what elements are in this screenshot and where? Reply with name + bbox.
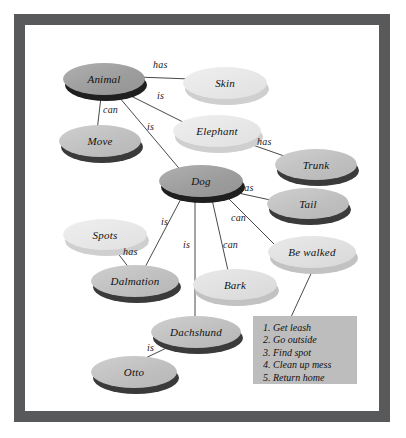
node-label-skin: Skin xyxy=(215,77,235,89)
node-elephant[interactable]: Elephant xyxy=(173,115,261,147)
procedure-list-box: 1. Get leash2. Go outside3. Find spot4. … xyxy=(253,316,357,384)
node-label-trunk: Trunk xyxy=(303,159,330,171)
node-label-otto: Otto xyxy=(124,366,144,378)
node-label-elephant: Elephant xyxy=(196,125,237,137)
node-skin[interactable]: Skin xyxy=(183,67,267,99)
edge-label-dachshund-otto: is xyxy=(147,343,154,353)
node-label-spots: Spots xyxy=(93,229,118,241)
edge-dog-dalmation xyxy=(143,195,183,271)
node-tail[interactable]: Tail xyxy=(267,188,349,219)
node-label-tail: Tail xyxy=(299,198,317,210)
edge-label-dog-dalmation: is xyxy=(161,217,168,227)
figure-root: AnimalSkinMoveElephantTrunkDogTailSpotsB… xyxy=(0,0,406,438)
procedure-item: 4. Clean up mess xyxy=(263,359,349,371)
edge-label-spots-dalmation: has xyxy=(123,247,138,257)
procedure-item: 5. Return home xyxy=(263,372,349,384)
node-label-move: Move xyxy=(87,135,112,147)
edge-label-dog-bewalked: can xyxy=(231,213,246,223)
edge-label-animal-dog: is xyxy=(147,122,154,132)
node-dachshund[interactable]: Dachshund xyxy=(151,316,241,348)
node-label-bewalked: Be walked xyxy=(288,246,335,258)
node-move[interactable]: Move xyxy=(59,125,141,157)
node-label-dog: Dog xyxy=(191,175,211,187)
node-trunk[interactable]: Trunk xyxy=(275,149,357,180)
node-bark[interactable]: Bark xyxy=(193,269,277,300)
edge-dog-bark xyxy=(211,195,229,275)
diagram-canvas: AnimalSkinMoveElephantTrunkDogTailSpotsB… xyxy=(25,25,401,433)
edge-label-animal-move: can xyxy=(103,105,118,115)
node-otto[interactable]: Otto xyxy=(91,356,177,388)
node-dog[interactable]: Dog xyxy=(159,165,243,197)
edge-label-elephant-trunk: has xyxy=(257,137,272,147)
edge-label-dog-dachshund: is xyxy=(183,240,190,250)
node-label-dachshund: Dachshund xyxy=(170,326,222,338)
node-animal[interactable]: Animal xyxy=(63,63,145,95)
node-spots[interactable]: Spots xyxy=(63,219,147,250)
node-dalmation[interactable]: Dalmation xyxy=(91,265,179,297)
picture-frame: AnimalSkinMoveElephantTrunkDogTailSpotsB… xyxy=(14,14,390,422)
node-label-dalmation: Dalmation xyxy=(111,275,160,287)
procedure-item: 1. Get leash xyxy=(263,322,349,334)
node-label-animal: Animal xyxy=(88,73,121,85)
procedure-item: 3. Find spot xyxy=(263,347,349,359)
node-bewalked[interactable]: Be walked xyxy=(268,236,356,268)
edge-label-animal-skin: has xyxy=(153,60,168,70)
edge-label-animal-elephant: is xyxy=(157,91,164,101)
procedure-item: 2. Go outside xyxy=(263,334,349,346)
edge-label-dog-bark: can xyxy=(223,240,238,250)
node-label-bark: Bark xyxy=(224,279,246,291)
